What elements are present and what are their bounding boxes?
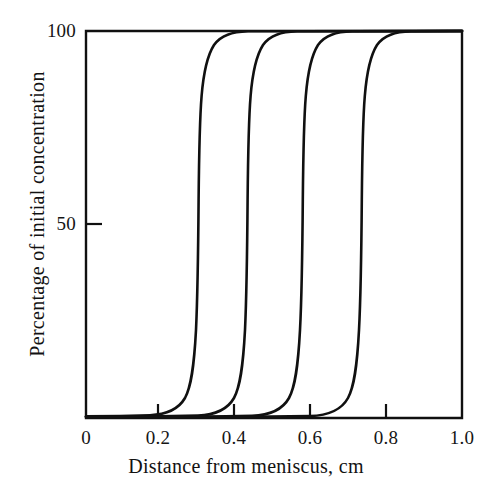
x-tick-label-0: 0 (81, 427, 91, 449)
x-tick-label-1.0: 1.0 (450, 427, 474, 449)
plot-canvas (0, 0, 492, 492)
x-tick-label-0.8: 0.8 (374, 427, 398, 449)
curve-boundary-4 (86, 31, 462, 417)
x-tick-label-0.2: 0.2 (146, 427, 170, 449)
boundary-curves (86, 31, 462, 417)
x-tick-label-0.6: 0.6 (298, 427, 322, 449)
axis-frame (86, 31, 462, 418)
curve-boundary-2 (86, 31, 462, 417)
y-axis-title: Percentage of initial concentration (22, 18, 52, 410)
curve-boundary-3 (86, 31, 462, 417)
curve-boundary-1 (86, 31, 462, 416)
chart-figure: 100 50 0 0.2 0.4 0.6 0.8 1.0 Distance fr… (0, 0, 492, 492)
x-tick-label-0.4: 0.4 (222, 427, 246, 449)
x-axis-title: Distance from meniscus, cm (0, 455, 492, 478)
plot-border (86, 31, 462, 418)
